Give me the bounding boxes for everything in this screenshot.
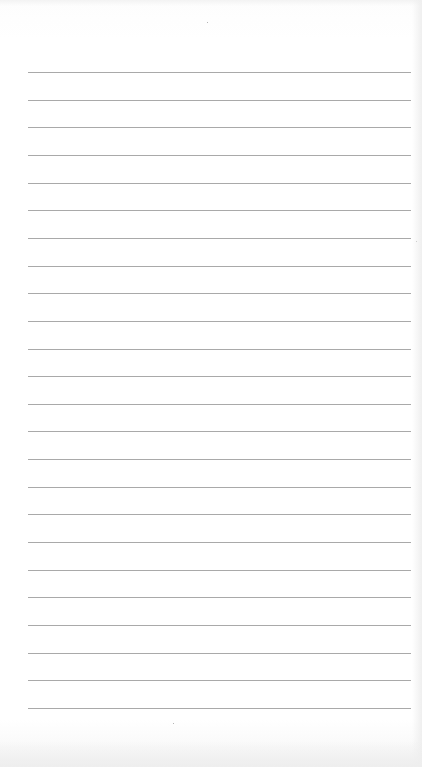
paper-speck — [173, 723, 174, 724]
bottom-edge-shadow — [0, 741, 422, 767]
ruled-line — [28, 459, 411, 460]
ruled-line — [28, 349, 411, 350]
lined-paper-page — [0, 0, 422, 767]
ruled-line — [28, 487, 411, 488]
ruled-line — [28, 431, 411, 432]
ruled-line — [28, 266, 411, 267]
ruled-line — [28, 708, 411, 709]
ruled-line — [28, 293, 411, 294]
ruled-line — [28, 514, 411, 515]
ruled-line — [28, 542, 411, 543]
ruled-line — [28, 127, 411, 128]
ruled-line — [28, 155, 411, 156]
paper-speck — [207, 22, 208, 23]
ruled-line — [28, 72, 411, 73]
ruled-line — [28, 625, 411, 626]
ruled-line — [28, 183, 411, 184]
ruled-line — [28, 210, 411, 211]
ruled-line — [28, 100, 411, 101]
ruled-line — [28, 653, 411, 654]
right-edge-shadow — [412, 0, 422, 767]
ruled-line — [28, 376, 411, 377]
ruled-line — [28, 597, 411, 598]
ruled-line — [28, 570, 411, 571]
ruled-line — [28, 404, 411, 405]
ruled-line — [28, 321, 411, 322]
ruled-line — [28, 680, 411, 681]
ruled-line — [28, 238, 411, 239]
ruled-lines — [0, 0, 422, 767]
